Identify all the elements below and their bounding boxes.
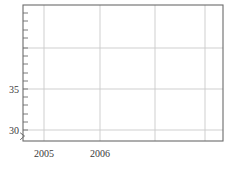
x-axis-tick-labels: 20052006 bbox=[34, 148, 110, 159]
plot-background bbox=[23, 5, 223, 141]
y-tick-label-0: 35 bbox=[9, 84, 19, 95]
x-tick-label-1: 2006 bbox=[90, 148, 110, 159]
x-tick-label-0: 2005 bbox=[34, 148, 54, 159]
y-tick-label-1: 30 bbox=[9, 125, 19, 136]
chart-plot: 3530 20052006 bbox=[0, 0, 234, 171]
chart-container: 3530 20052006 bbox=[0, 0, 234, 171]
y-axis-tick-labels: 3530 bbox=[9, 84, 19, 136]
